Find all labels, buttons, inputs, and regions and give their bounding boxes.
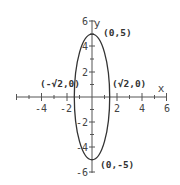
y-tick-label: -4	[76, 142, 88, 153]
y-tick-label: -6	[76, 167, 88, 178]
ellipse-plot: -4 -2 2 4 6 6 4 2 -2 -4 -6 x y (0,5) (0,…	[0, 0, 180, 185]
x-tick-label: 4	[139, 103, 145, 114]
y-tick-label: 4	[82, 41, 88, 52]
x-tick-label: 2	[114, 103, 120, 114]
point-label-top: (0,5)	[103, 27, 132, 38]
point-label-bottom: (0,-5)	[100, 159, 134, 170]
y-tick-label: 2	[82, 67, 88, 78]
x-tick-label: -2	[60, 103, 72, 114]
point-label-left: (-√2,0)	[40, 78, 80, 89]
y-tick-label: -2	[76, 117, 88, 128]
point-label-right: (√2,0)	[112, 78, 146, 89]
x-tick-label: 6	[164, 103, 170, 114]
y-tick-label: 6	[82, 16, 88, 27]
x-tick-label: -4	[35, 103, 47, 114]
x-axis-label: x	[158, 82, 165, 95]
y-axis-label: y	[94, 17, 101, 30]
